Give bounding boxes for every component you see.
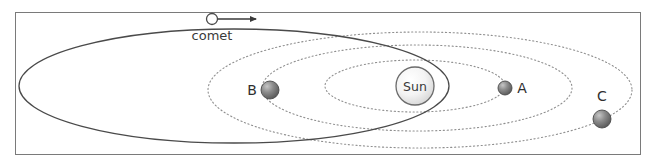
diagram-canvas: Sun A B C comet: [0, 0, 656, 166]
planet-b-label: B: [247, 82, 257, 98]
planet-b: B: [247, 81, 279, 99]
planet-a-circle: [498, 81, 512, 95]
planet-c-circle: [593, 110, 611, 128]
orbit-diagram-figure: Sun A B C comet: [0, 0, 656, 166]
planet-a-label: A: [517, 80, 527, 96]
comet-label: comet: [192, 28, 233, 43]
figure-frame: [16, 13, 641, 155]
sun-label: Sun: [403, 79, 427, 94]
sun-body: Sun: [396, 67, 434, 105]
comet-marker: [207, 14, 218, 25]
planet-b-circle: [261, 81, 279, 99]
planet-c-label: C: [597, 88, 607, 104]
